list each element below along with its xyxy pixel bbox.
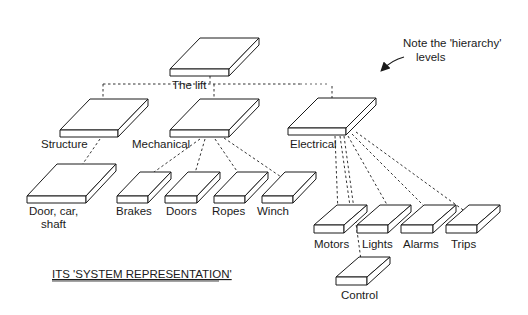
node-label-mechanical: Mechanical xyxy=(132,138,190,150)
node-label-electrical: Electrical xyxy=(290,138,337,150)
node-doors xyxy=(165,172,220,203)
node-label-structure: Structure xyxy=(41,138,88,150)
node-control xyxy=(336,257,390,285)
annotation-line-2: levels xyxy=(416,51,446,63)
hierarchy-diagram: The lift Structure Mechanical Electrical… xyxy=(0,0,528,315)
node-label-motors: Motors xyxy=(314,238,349,250)
diagram-caption: ITS 'SYSTEM REPRESENTATION' xyxy=(52,268,232,280)
node-brakes xyxy=(117,172,171,203)
node-label-control: Control xyxy=(341,289,378,301)
node-label-door-car-shaft-1: Door, car, xyxy=(29,205,78,217)
node-label-alarms: Alarms xyxy=(403,238,439,250)
node-ropes xyxy=(214,172,268,203)
node-label-ropes: Ropes xyxy=(212,205,245,217)
annotation-line-1: Note the 'hierarchy' xyxy=(403,37,501,49)
node-electrical xyxy=(288,98,376,135)
node-label-lights: Lights xyxy=(362,238,393,250)
node-label-trips: Trips xyxy=(451,238,476,250)
node-mechanical xyxy=(170,99,259,137)
node-structure xyxy=(60,99,148,137)
node-label-door-car-shaft-2: shaft xyxy=(41,218,67,230)
node-door-car-shaft xyxy=(27,164,116,203)
node-label-brakes: Brakes xyxy=(116,205,152,217)
node-label-winch: Winch xyxy=(257,205,289,217)
arrow-icon xyxy=(382,57,404,70)
node-label-doors: Doors xyxy=(166,205,197,217)
node-label-the-lift: The lift xyxy=(172,79,207,91)
node-winch xyxy=(262,172,316,203)
node-the-lift xyxy=(170,38,259,76)
